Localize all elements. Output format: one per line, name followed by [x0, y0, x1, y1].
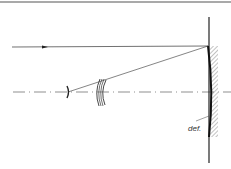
optical-diagram: def.	[0, 0, 231, 169]
mirror-label: def.	[188, 124, 201, 133]
label-leader	[196, 116, 209, 121]
reflected-ray	[68, 46, 208, 92]
incident-ray	[12, 46, 208, 49]
small-mirror	[67, 86, 69, 98]
arrow-right-icon	[42, 46, 48, 49]
meniscus-corrector	[97, 79, 106, 106]
